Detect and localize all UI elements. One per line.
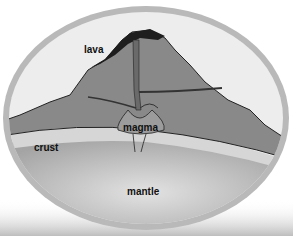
label-lava: lava [84, 44, 103, 55]
label-crust: crust [34, 142, 58, 153]
label-magma: magma [123, 122, 158, 133]
volcano-illustration [0, 0, 293, 236]
label-mantle: mantle [127, 186, 159, 197]
volcano-diagram: lava magma crust mantle [0, 0, 293, 236]
